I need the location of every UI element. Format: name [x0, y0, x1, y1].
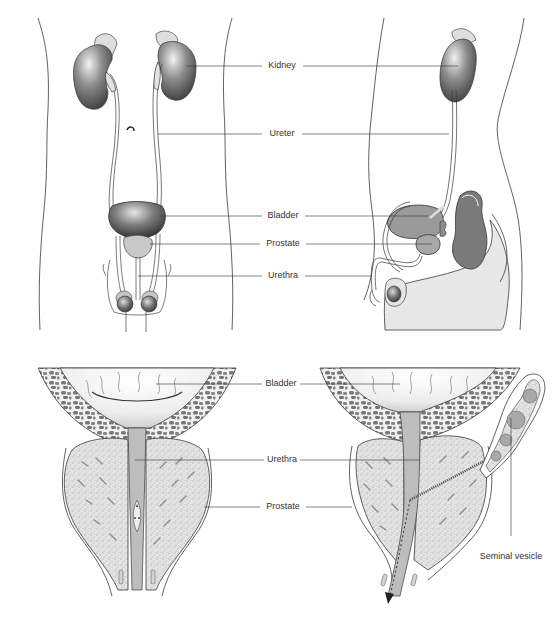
bladder-side	[388, 205, 445, 239]
label-ureter: Ureter	[267, 128, 296, 139]
seminal-vesicle-side	[440, 221, 446, 236]
kidney-right-front	[156, 31, 196, 100]
label-bladder-bottom: Bladder	[263, 378, 298, 389]
label-seminal-vesicle: Seminal vesicle	[478, 551, 545, 562]
label-prostate-top: Prostate	[264, 238, 302, 249]
label-bladder-top: Bladder	[265, 210, 300, 221]
umbilicus-mark	[127, 127, 134, 131]
bladder-front	[109, 202, 166, 239]
diagram-canvas	[0, 0, 557, 619]
prostate-section-front	[62, 428, 211, 596]
prostate-section-side	[349, 412, 491, 604]
kidney-left-front	[74, 34, 117, 109]
testis-side	[385, 278, 406, 306]
prostate-side	[416, 235, 440, 255]
label-urethra-top: Urethra	[266, 270, 300, 281]
front-view-figure	[38, 18, 233, 330]
ureters-front	[105, 62, 162, 212]
prostate-front	[124, 235, 153, 258]
label-prostate-bottom: Prostate	[264, 501, 302, 512]
testes-front	[116, 291, 158, 312]
label-kidney: Kidney	[266, 60, 298, 71]
urinary-system-diagram: Kidney Ureter Bladder Prostate Urethra B…	[0, 0, 557, 619]
label-urethra-bottom: Urethra	[265, 454, 299, 465]
kidney-side	[440, 29, 476, 102]
rectum-side	[453, 191, 487, 269]
